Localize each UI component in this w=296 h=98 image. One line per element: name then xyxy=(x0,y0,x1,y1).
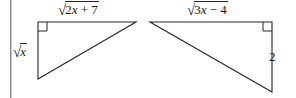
radicand-part: 7 xyxy=(91,2,98,17)
left-triangle-vertical-leg-label: √x xyxy=(13,43,27,60)
right-triangle-vertical-leg-label: 2 xyxy=(269,50,276,63)
radicand-part: x xyxy=(20,44,26,59)
right-triangle-top-leg-label: √3x − 4 xyxy=(187,1,228,18)
right-right-angle-marker-icon xyxy=(263,22,272,31)
geometry-figure: √2x + 7 √x √3x − 4 2 xyxy=(0,0,296,98)
radical-expression: √x xyxy=(13,43,27,60)
radicand: 3x − 4 xyxy=(194,1,228,16)
radicand-part: + xyxy=(78,2,92,17)
left-right-angle-marker-icon xyxy=(38,22,47,31)
radicand: 2x + 7 xyxy=(65,1,99,16)
right-right-triangle xyxy=(150,22,272,92)
radicand-part: − xyxy=(207,2,221,17)
radicand: x xyxy=(20,43,27,58)
right-triangle-outline xyxy=(150,22,272,92)
left-triangle-top-leg-label: √2x + 7 xyxy=(58,1,99,18)
radical-expression: √3x − 4 xyxy=(187,1,228,18)
left-right-triangle xyxy=(38,22,136,79)
triangles-svg xyxy=(0,0,296,98)
radicand-part: 4 xyxy=(220,2,227,17)
radical-expression: √2x + 7 xyxy=(58,1,99,18)
left-triangle-outline xyxy=(38,22,136,79)
